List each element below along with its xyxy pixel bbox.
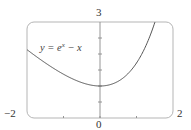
y-max-label: 3	[96, 7, 102, 18]
equation-prefix: y = e	[40, 42, 62, 53]
x-max-label: 2	[177, 108, 183, 119]
equation-label: y = ex − x	[40, 42, 82, 54]
function-curve	[27, 22, 155, 86]
x-origin-label: 0	[96, 119, 102, 130]
plot-area	[0, 0, 191, 130]
equation-suffix: − x	[65, 42, 82, 53]
x-min-label: −2	[4, 108, 16, 119]
